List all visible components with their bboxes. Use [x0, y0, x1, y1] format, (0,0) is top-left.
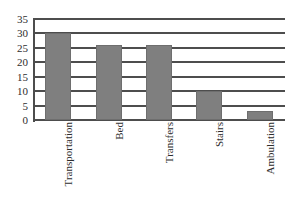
y-tick-label: 0 — [0, 115, 28, 126]
x-tick-label: Transfers — [164, 122, 175, 202]
y-tick-label: 25 — [0, 42, 28, 53]
x-axis-category-labels: TransportationBedTransfersStairsAmbulati… — [33, 122, 285, 202]
bar-chart: 05101520253035 TransportationBedTransfer… — [0, 0, 298, 202]
x-tick-label: Transportation — [63, 122, 74, 202]
y-tick-label: 30 — [0, 28, 28, 39]
y-tick-label: 35 — [0, 14, 28, 25]
x-tick-label: Stairs — [214, 122, 225, 202]
gridline-35 — [33, 18, 285, 20]
bar — [146, 45, 172, 120]
bar — [96, 45, 122, 120]
y-tick-label: 15 — [0, 71, 28, 82]
bar — [247, 111, 273, 120]
y-tick-label: 5 — [0, 100, 28, 111]
y-tick-label: 10 — [0, 86, 28, 97]
bar — [45, 33, 71, 120]
plot-area — [33, 19, 285, 120]
x-tick-label: Ambulation — [265, 122, 276, 202]
x-tick-label: Bed — [114, 122, 125, 202]
bar — [196, 91, 222, 120]
y-tick-label: 20 — [0, 57, 28, 68]
y-axis-tick-labels: 05101520253035 — [0, 19, 30, 120]
